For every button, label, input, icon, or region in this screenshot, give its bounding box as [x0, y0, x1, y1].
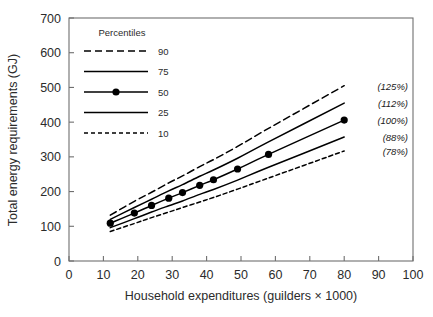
legend-label-25: 25: [158, 107, 169, 118]
y-tick-label: 600: [40, 46, 61, 60]
y-axis-title: Total energy requirements (GJ): [6, 54, 20, 226]
annotation-75: (112%): [378, 98, 408, 109]
y-axis-tick-labels: 0100200300400500600700: [40, 12, 61, 269]
annotation-25: (88%): [383, 132, 408, 143]
x-tick-label: 80: [337, 268, 351, 282]
x-tick-label: 40: [200, 268, 214, 282]
data-point-marker: [165, 195, 172, 202]
y-tick-label: 200: [40, 185, 61, 199]
series-line-50: [110, 120, 344, 223]
series-line-75: [110, 103, 344, 219]
legend-entry-10: 10: [84, 128, 169, 139]
data-point-marker: [107, 220, 114, 227]
legend-entry-90: 90: [84, 46, 169, 57]
series-line-25: [110, 137, 344, 228]
series-annotations: (125%)(112%)(100%)(88%)(78%): [377, 81, 408, 157]
x-tick-label: 60: [268, 268, 282, 282]
x-tick-label: 50: [234, 268, 248, 282]
annotation-50: (100%): [377, 115, 408, 126]
legend-label-75: 75: [158, 66, 169, 77]
data-point-marker: [234, 165, 241, 172]
data-point-marker: [196, 182, 203, 189]
legend-entry-50: 50: [84, 87, 169, 98]
data-point-marker: [148, 202, 155, 209]
x-tick-label: 20: [131, 268, 145, 282]
legend-marker: [112, 88, 119, 95]
y-tick-label: 300: [40, 150, 61, 164]
y-axis-ticks: [69, 18, 74, 261]
data-point-marker: [341, 116, 348, 123]
y-tick-label: 0: [54, 255, 61, 269]
annotation-10: (78%): [383, 146, 408, 157]
percentile-line-chart: 0102030405060708090100 01002003004005006…: [0, 0, 433, 317]
y-tick-label: 500: [40, 81, 61, 95]
legend-title: Percentiles: [99, 27, 146, 38]
legend-label-90: 90: [158, 46, 169, 57]
x-tick-label: 0: [66, 268, 73, 282]
data-point-marker: [265, 151, 272, 158]
legend-label-50: 50: [158, 87, 169, 98]
x-axis-tick-labels: 0102030405060708090100: [66, 268, 424, 282]
data-point-marker: [131, 209, 138, 216]
x-tick-label: 70: [303, 268, 317, 282]
data-curves: [110, 86, 344, 232]
legend: Percentiles 9075502510: [84, 27, 169, 139]
data-point-marker: [210, 176, 217, 183]
x-tick-label: 90: [372, 268, 386, 282]
x-axis-ticks: [69, 256, 413, 261]
y-tick-label: 700: [40, 12, 61, 26]
annotation-90: (125%): [377, 81, 408, 92]
x-tick-label: 100: [403, 268, 424, 282]
x-tick-label: 10: [96, 268, 110, 282]
legend-label-10: 10: [158, 128, 169, 139]
x-axis-title: Household expenditures (guilders × 1000): [125, 289, 357, 303]
y-tick-label: 100: [40, 220, 61, 234]
legend-entry-25: 25: [84, 107, 169, 118]
y-tick-label: 400: [40, 116, 61, 130]
legend-entry-75: 75: [84, 66, 169, 77]
chart-container: 0102030405060708090100 01002003004005006…: [0, 0, 433, 317]
x-tick-label: 30: [165, 268, 179, 282]
legend-entries: 9075502510: [84, 46, 169, 139]
data-point-marker: [179, 189, 186, 196]
